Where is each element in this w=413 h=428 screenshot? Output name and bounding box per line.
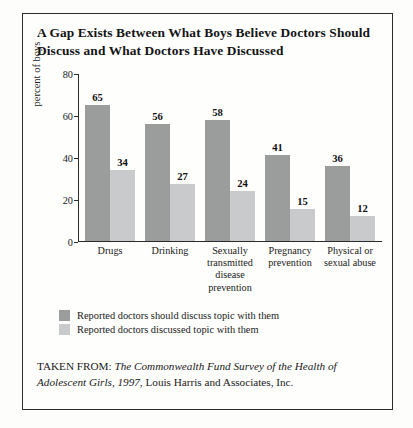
bar-value-label: 41 [272, 142, 283, 153]
legend-swatch-icon-discussed [59, 324, 70, 335]
bar-value-label: 27 [177, 171, 188, 182]
y-tick-0: 0 [49, 237, 73, 248]
plot-area: percent of boys 80 60 40 20 0 6534562758… [37, 74, 383, 306]
bar: 36 [325, 166, 350, 241]
x-tick-label: Drugs [80, 245, 140, 294]
y-tick-40: 40 [49, 153, 73, 164]
bar-group: 4115 [260, 74, 320, 241]
bar: 24 [230, 191, 255, 241]
bar: 12 [350, 216, 375, 241]
bar: 41 [265, 155, 290, 240]
legend-label-discussed: Reported doctors discussed topic with th… [77, 324, 259, 335]
y-tick-20: 20 [49, 195, 73, 206]
x-tick-label: Sexually transmitted disease prevention [200, 245, 260, 294]
bar-value-label: 34 [117, 157, 128, 168]
bar-groups: 65345627582441153612 [80, 74, 380, 241]
bar-value-label: 56 [152, 111, 163, 122]
bar-value-label: 24 [237, 178, 248, 189]
y-tick-mark-80 [74, 74, 78, 75]
bar: 56 [145, 124, 170, 241]
bar-group: 3612 [320, 74, 380, 241]
bar-group: 5627 [140, 74, 200, 241]
source-attribution: TAKEN FROM: The Commonwealth Fund Survey… [37, 359, 383, 390]
legend-item-discussed: Reported doctors discussed topic with th… [59, 324, 379, 335]
bar: 58 [205, 120, 230, 241]
x-axis-line [78, 241, 382, 242]
bar: 27 [170, 184, 195, 240]
legend-item-should-discuss: Reported doctors should discuss topic wi… [59, 310, 379, 321]
x-tick-label: Pregnancy prevention [260, 245, 320, 294]
chart-title: A Gap Exists Between What Boys Believe D… [37, 24, 385, 59]
y-axis-tick-labels: 80 60 40 20 0 [47, 74, 73, 242]
chart-panel: A Gap Exists Between What Boys Believe D… [22, 13, 393, 410]
x-tick-label: Physical or sexual abuse [320, 245, 380, 294]
chart-legend: Reported doctors should discuss topic wi… [59, 310, 379, 337]
y-tick-mark-20 [74, 200, 78, 201]
bar-value-label: 36 [332, 153, 343, 164]
bar-value-label: 58 [212, 107, 223, 118]
y-tick-mark-0 [74, 242, 78, 243]
x-axis-tick-labels: DrugsDrinkingSexually transmitted diseas… [80, 245, 380, 294]
y-axis-label: percent of boys [31, 14, 42, 134]
y-tick-80: 80 [49, 69, 73, 80]
legend-swatch-icon-should-discuss [59, 310, 70, 321]
axes: 65345627582441153612 [78, 74, 382, 242]
y-tick-mark-40 [74, 158, 78, 159]
bar-value-label: 12 [357, 203, 368, 214]
bar-value-label: 15 [297, 196, 308, 207]
source-suffix: , Louis Harris and Associates, Inc. [140, 376, 293, 388]
y-tick-mark-60 [74, 116, 78, 117]
x-tick-label: Drinking [140, 245, 200, 294]
source-prefix: TAKEN FROM: [37, 360, 112, 372]
bar-group: 5824 [200, 74, 260, 241]
bar: 34 [110, 170, 135, 241]
bar: 65 [85, 105, 110, 240]
bar-value-label: 65 [92, 92, 103, 103]
bar: 15 [290, 209, 315, 240]
bar-group: 6534 [80, 74, 140, 241]
legend-label-should-discuss: Reported doctors should discuss topic wi… [77, 310, 279, 321]
y-tick-60: 60 [49, 111, 73, 122]
